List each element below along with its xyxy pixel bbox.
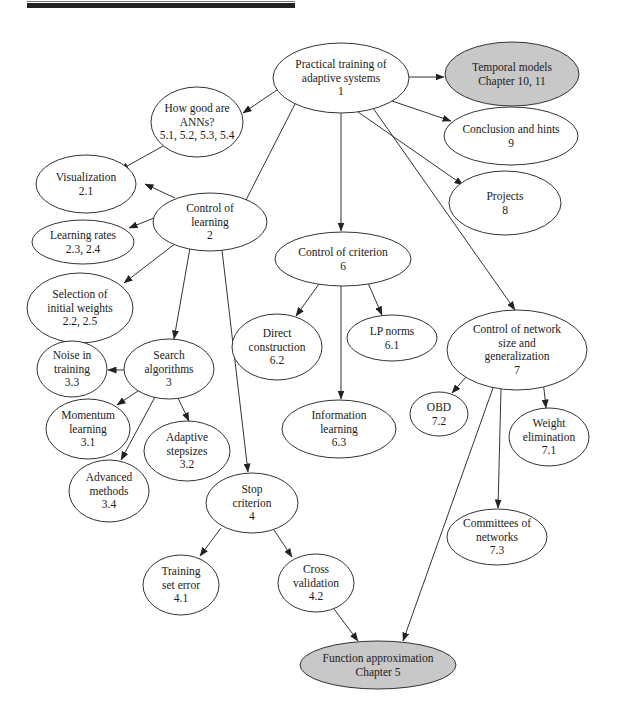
edge-n42-to-funcapprox [334,609,358,641]
edge-n1-to-n8 [358,112,463,185]
node-n23 [32,220,134,264]
node-n5 [151,87,243,157]
edge-n7-to-n72 [452,377,466,393]
edge-n1-to-n2 [246,104,295,200]
edge-n1-to-n9 [392,101,451,121]
edge-n3-to-n32 [178,398,189,421]
node-n22 [27,273,133,343]
edge-n1-to-n5 [243,90,277,113]
edge-n4-to-n42 [274,530,292,557]
node-n72 [410,392,468,436]
node-n4 [206,473,298,533]
node-n8 [449,171,561,235]
edge-n6-to-n61 [368,283,382,315]
edge-n2-to-n21 [145,184,175,198]
node-n41 [143,555,219,615]
node-n7 [447,310,587,390]
node-n33 [37,341,107,397]
node-n3 [124,339,214,399]
node-n9 [444,107,578,165]
node-n1 [273,43,409,113]
edge-n3-to-n31 [117,391,138,405]
node-n6 [275,232,411,286]
edge-n4-to-n41 [200,528,221,556]
node-funcapprox [300,641,456,689]
node-n21 [36,155,136,213]
edge-n6-to-n62 [296,284,319,316]
node-n73 [447,509,547,565]
concept-map [0,0,620,714]
edge-n5-to-n21 [120,145,165,170]
edge-n2-to-n23 [129,218,154,228]
node-n61 [347,315,437,361]
node-n34 [69,460,149,522]
node-n42 [278,554,354,612]
nodes-layer [27,42,589,689]
node-n31 [46,399,130,459]
node-n32 [144,421,230,481]
node-temporal [445,42,579,106]
node-n71 [509,408,589,466]
node-n63 [282,400,396,458]
edge-n7-to-n73 [498,389,501,508]
node-n62 [232,314,322,380]
node-n2 [153,193,267,251]
edge-n2-to-n3 [174,248,190,339]
